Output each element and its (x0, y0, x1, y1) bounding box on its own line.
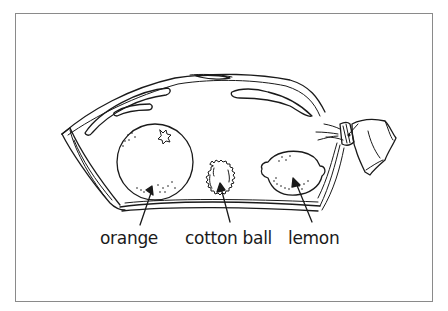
label-cotton-ball: cotton ball (185, 228, 272, 248)
arrow-orange (140, 186, 153, 225)
lemon-icon (261, 151, 325, 195)
label-lemon: lemon (288, 228, 339, 248)
label-orange: orange (100, 228, 158, 248)
arrow-lemon (292, 178, 312, 222)
twist-tie-icon (340, 120, 396, 175)
plastic-bag-icon (62, 74, 344, 211)
bag-illustration (0, 0, 448, 311)
orange-icon (117, 124, 193, 200)
